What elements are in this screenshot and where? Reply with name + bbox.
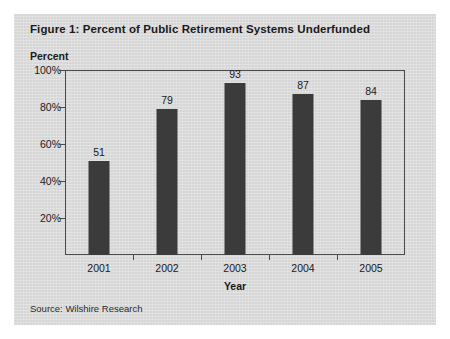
y-axis-tick-label: 100%	[34, 64, 61, 76]
bar-slot: 87	[269, 70, 337, 255]
x-axis-tick-mark	[201, 255, 202, 260]
figure-card: Figure 1: Percent of Public Retirement S…	[14, 14, 436, 325]
x-axis-tick-label: 2004	[291, 262, 314, 274]
y-axis-tick-group: 100%80%60%40%20%	[14, 14, 61, 325]
y-axis-tick-label: 80%	[40, 101, 61, 113]
x-axis-tick-mark	[269, 255, 270, 260]
x-axis-tick-label: 2001	[87, 262, 110, 274]
bar	[361, 100, 382, 255]
bar-slot: 79	[133, 70, 201, 255]
bar-slot: 93	[201, 70, 269, 255]
x-axis-title: Year	[65, 280, 405, 292]
figure-title: Figure 1: Percent of Public Retirement S…	[30, 23, 370, 35]
x-axis-tick-label: 2003	[223, 262, 246, 274]
x-axis-tick-label: 2005	[359, 262, 382, 274]
bar-value-label: 84	[365, 85, 377, 97]
bar	[225, 83, 246, 255]
bar-slot: 51	[65, 70, 133, 255]
bar	[89, 161, 110, 255]
y-axis-tick-label: 60%	[40, 138, 61, 150]
bar	[293, 94, 314, 255]
y-axis-tick-label: 40%	[40, 175, 61, 187]
bar-value-label: 51	[93, 146, 105, 158]
source-note: Source: Wilshire Research	[30, 303, 142, 314]
bar-value-label: 79	[161, 94, 173, 106]
bar-slot: 84	[337, 70, 405, 255]
x-axis-tick-mark	[133, 255, 134, 260]
x-axis-tick-label: 2002	[155, 262, 178, 274]
bar-value-label: 87	[297, 79, 309, 91]
y-axis-tick-label: 20%	[40, 212, 61, 224]
bar-value-label: 93	[229, 68, 241, 80]
x-axis-tick-mark	[337, 255, 338, 260]
bar	[157, 109, 178, 255]
bars-layer: 5179938784	[65, 70, 405, 255]
